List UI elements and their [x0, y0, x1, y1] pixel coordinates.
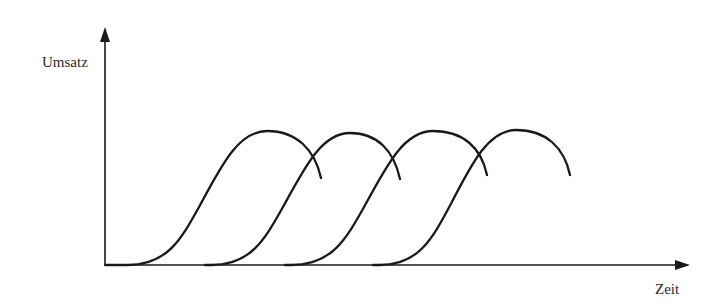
y-axis-label: Umsatz: [42, 54, 88, 70]
life-cycle-curve-product-4: [373, 130, 570, 265]
life-cycle-curve-product-3: [285, 131, 487, 265]
x-axis-label: Zeit: [655, 281, 680, 297]
curves-group: [105, 130, 570, 265]
life-cycle-curve-product-2: [205, 133, 400, 265]
x-axis-arrow-icon: [675, 260, 690, 270]
diagram-canvas: Umsatz Zeit: [0, 0, 726, 307]
y-axis-arrow-icon: [100, 27, 110, 42]
